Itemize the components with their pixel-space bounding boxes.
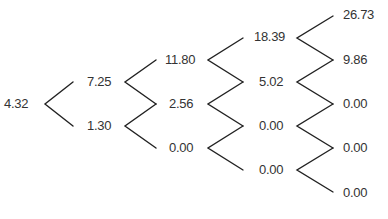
edge-2-1 <box>208 82 243 126</box>
edge-3-0 <box>297 16 333 60</box>
node-3-1: 5.02 <box>259 75 283 89</box>
node-1-1: 1.30 <box>87 119 111 133</box>
node-4-2: 0.00 <box>343 97 367 111</box>
node-1-0: 7.25 <box>87 75 111 89</box>
node-2-2: 0.00 <box>169 141 193 155</box>
edge-1-0 <box>125 60 156 104</box>
node-3-2: 0.00 <box>259 119 283 133</box>
node-0-0: 4.32 <box>4 97 28 111</box>
node-4-0: 26.73 <box>343 8 374 22</box>
edge-0-0 <box>45 82 73 126</box>
tree-edges <box>0 0 388 219</box>
node-2-0: 11.80 <box>165 53 195 67</box>
edge-3-3 <box>297 148 333 192</box>
node-3-3: 0.00 <box>259 163 283 177</box>
edge-1-1 <box>125 104 156 148</box>
edge-3-1 <box>297 60 333 104</box>
node-3-0: 18.39 <box>254 30 285 44</box>
edge-3-2 <box>297 104 333 148</box>
edge-2-2 <box>208 126 243 170</box>
edge-2-0 <box>208 38 243 82</box>
node-4-4: 0.00 <box>343 186 367 200</box>
node-4-3: 0.00 <box>343 141 367 155</box>
node-2-1: 2.56 <box>169 97 193 111</box>
node-4-1: 9.86 <box>343 53 367 67</box>
